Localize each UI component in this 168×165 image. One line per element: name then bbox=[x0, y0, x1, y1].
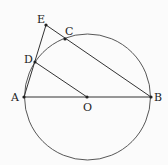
point-o bbox=[85, 95, 88, 98]
label-a: A bbox=[10, 91, 20, 104]
segment-do bbox=[35, 62, 87, 97]
segment-eb bbox=[46, 25, 151, 97]
point-a bbox=[22, 95, 25, 98]
label-c: C bbox=[65, 25, 73, 38]
geometry-diagram: A B O C D E bbox=[0, 0, 168, 165]
point-d bbox=[33, 60, 36, 63]
label-b: B bbox=[154, 91, 162, 104]
point-b bbox=[149, 95, 152, 98]
label-d: D bbox=[24, 53, 33, 66]
label-e: E bbox=[37, 13, 45, 26]
label-o: O bbox=[83, 101, 92, 114]
